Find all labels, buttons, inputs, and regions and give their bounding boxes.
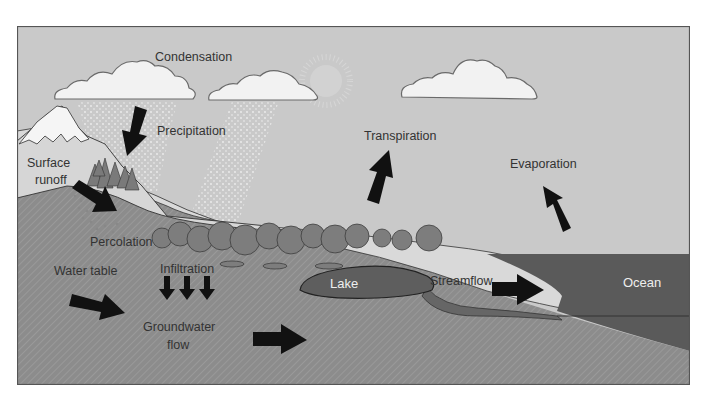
label-streamflow: Streamflow [430,274,493,288]
water-cycle-diagram: Condensation Precipitation Transpiration… [17,26,690,385]
label-groundwater-flow-line1: Groundwater [143,320,215,334]
label-transpiration: Transpiration [364,129,437,143]
label-ocean: Ocean [623,275,661,290]
label-infiltration: Infiltration [160,262,214,276]
label-surface-runoff-line1: Surface [27,156,70,170]
label-surface-runoff-line2: runoff [35,173,67,187]
label-lake: Lake [330,276,358,291]
label-groundwater-flow-line2: flow [167,338,190,352]
label-percolation: Percolation [90,235,153,249]
label-precipitation: Precipitation [157,124,226,138]
label-evaporation: Evaporation [510,157,577,171]
label-water-table: Water table [54,264,118,278]
label-condensation: Condensation [155,50,232,64]
